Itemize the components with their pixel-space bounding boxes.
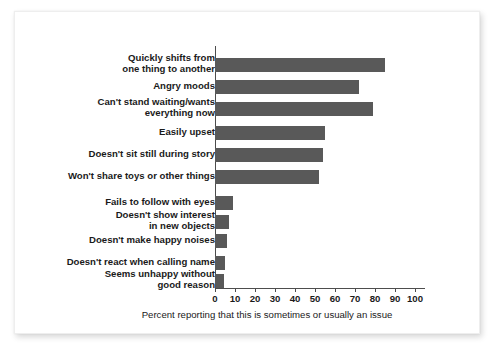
x-axis-tick-label: 10: [230, 293, 241, 304]
bar: [215, 256, 225, 270]
x-axis-tick: [215, 289, 216, 292]
bar-row: Angry moods: [15, 80, 481, 94]
bar-row: Seems unhappy without good reason: [15, 274, 481, 288]
bar: [215, 102, 373, 116]
bar-category-label: Angry moods: [19, 81, 215, 92]
bar-row: Easily upset: [15, 126, 481, 140]
bar-row: Fails to follow with eyes: [15, 196, 481, 210]
bar-category-label: Easily upset: [19, 127, 215, 138]
x-axis-tick: [315, 289, 316, 292]
bar-category-label: Doesn't sit still during story: [19, 149, 215, 160]
bar-row: Doesn't react when calling name: [15, 256, 481, 270]
x-axis-tick: [335, 289, 336, 292]
x-axis-tick-label: 20: [250, 293, 261, 304]
bar-category-label: Doesn't show interest in new objects: [19, 210, 215, 231]
bar: [215, 80, 359, 94]
bar-category-label: Quickly shifts from one thing to another: [19, 53, 215, 74]
x-axis-tick-label: 0: [212, 293, 217, 304]
bar: [215, 148, 323, 162]
x-axis-tick: [235, 289, 236, 292]
bar: [215, 234, 227, 248]
x-axis-tick-label: 100: [407, 293, 423, 304]
x-axis-tick: [395, 289, 396, 292]
bar: [215, 196, 233, 210]
bar-row: Quickly shifts from one thing to another: [15, 58, 481, 72]
x-axis-tick: [295, 289, 296, 292]
x-axis-tick-label: 30: [270, 293, 281, 304]
bar-row: Doesn't show interest in new objects: [15, 215, 481, 229]
bar: [215, 274, 224, 288]
x-axis-line: [215, 288, 425, 289]
bar: [215, 58, 385, 72]
bar-row: Won't share toys or other things: [15, 170, 481, 184]
bar-row: Can't stand waiting/wants everything now: [15, 102, 481, 116]
bar: [215, 126, 325, 140]
bar-category-label: Doesn't react when calling name: [19, 257, 215, 268]
bar: [215, 215, 229, 229]
bar-row: Doesn't sit still during story: [15, 148, 481, 162]
x-axis-tick: [275, 289, 276, 292]
x-axis-tick: [415, 289, 416, 292]
x-axis-tick: [255, 289, 256, 292]
bar-category-label: Fails to follow with eyes: [19, 197, 215, 208]
x-axis-tick: [355, 289, 356, 292]
bar-category-label: Won't share toys or other things: [19, 171, 215, 182]
x-axis-tick: [375, 289, 376, 292]
x-axis-tick-label: 90: [390, 293, 401, 304]
x-axis-tick-label: 40: [290, 293, 301, 304]
bar-category-label: Doesn't make happy noises: [19, 235, 215, 246]
bar-category-label: Can't stand waiting/wants everything now: [19, 97, 215, 118]
chart-card: Quickly shifts from one thing to another…: [14, 11, 480, 334]
x-axis-tick-label: 70: [350, 293, 361, 304]
x-axis-tick-label: 50: [310, 293, 321, 304]
x-axis-tick-label: 80: [370, 293, 381, 304]
x-axis-caption: Percent reporting that this is sometimes…: [15, 309, 481, 320]
bar-chart-plot-area: Quickly shifts from one thing to another…: [15, 12, 481, 335]
x-axis-tick-label: 60: [330, 293, 341, 304]
bar: [215, 170, 319, 184]
bar-row: Doesn't make happy noises: [15, 234, 481, 248]
bar-category-label: Seems unhappy without good reason: [19, 269, 215, 290]
